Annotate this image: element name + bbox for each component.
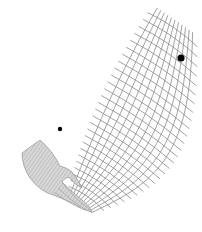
- hand-icon: [22, 140, 92, 212]
- large-dot: [177, 54, 184, 61]
- small-dot: [58, 127, 62, 131]
- hand-mesh-illustration: [0, 0, 202, 232]
- mesh-grid: [69, 8, 198, 213]
